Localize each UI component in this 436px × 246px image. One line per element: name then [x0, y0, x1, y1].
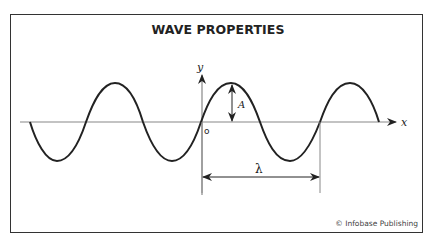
origin-label: o	[204, 126, 210, 136]
wave-diagram: y x o A λ	[0, 0, 436, 246]
x-axis-label: x	[401, 116, 408, 129]
wavelength-label: λ	[255, 162, 263, 176]
amplitude-label: A	[237, 99, 245, 110]
copyright-credit: © Infobase Publishing	[335, 219, 418, 228]
y-axis-label: y	[196, 61, 204, 74]
